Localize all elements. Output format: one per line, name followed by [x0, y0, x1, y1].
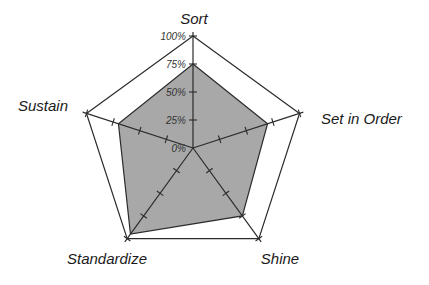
tick-label: 100% [160, 31, 186, 42]
category-label-sustain: Sustain [18, 97, 68, 114]
category-label-shine: Shine [261, 250, 299, 267]
category-label-standardize: Standardize [67, 250, 147, 267]
tick-label: 25% [165, 115, 186, 126]
tick-label: 75% [166, 59, 186, 70]
category-label-set-in-order: Set in Order [321, 110, 403, 127]
tick-label: 50% [166, 87, 186, 98]
tick-label: 0% [172, 143, 187, 154]
radar-chart: 0%25%50%75%100% SortSet in OrderShineSta… [0, 0, 429, 285]
category-label-sort: Sort [180, 10, 208, 27]
